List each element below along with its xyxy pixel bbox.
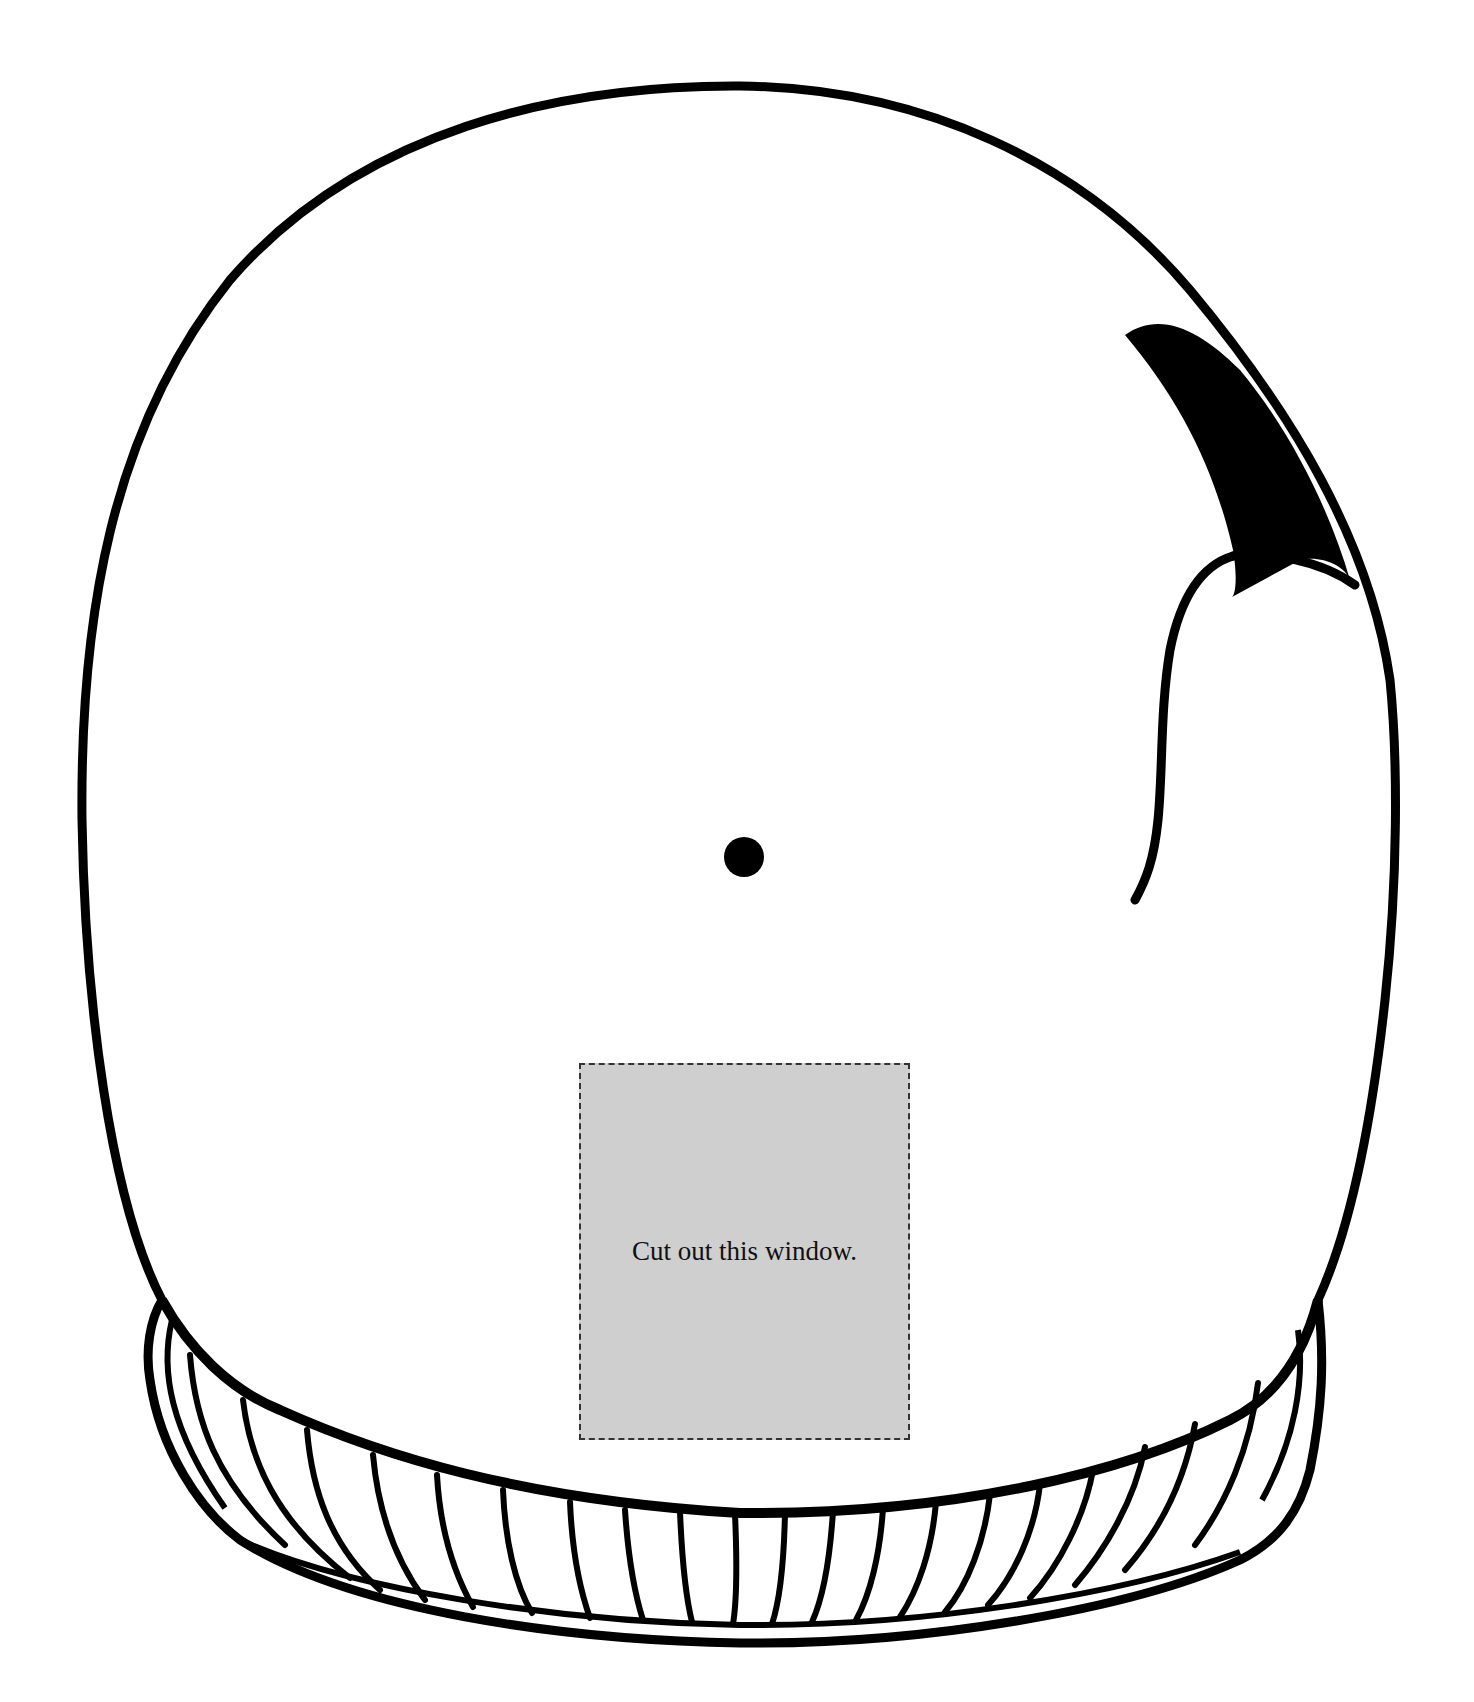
- mitten-drawing: [0, 0, 1474, 1702]
- cuff-bottom-band: [240, 1540, 1240, 1625]
- cutout-window-label: Cut out this window.: [632, 1236, 857, 1267]
- thumb-outline: [1135, 556, 1233, 900]
- center-dot: [724, 837, 764, 877]
- cutout-window: Cut out this window.: [579, 1063, 910, 1440]
